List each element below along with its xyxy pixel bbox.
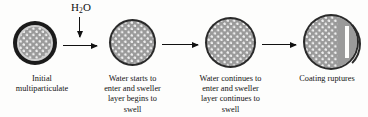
water-label: H2O: [71, 1, 91, 13]
stage-4-caption: Coating ruptures: [286, 74, 368, 84]
stage-2-stippled-core: [111, 21, 154, 64]
stage-4-rupture-flap: [305, 16, 361, 72]
arrow-water-in: [79, 17, 80, 37]
multiparticulate-swelling-diagram: Initial multiparticulate H2O Water start…: [0, 0, 368, 117]
arrow-1-to-2: [63, 45, 97, 46]
stage-2-caption-line-2: enter and sweller: [88, 84, 177, 94]
stage-4-caption-line-1: Coating ruptures: [286, 74, 368, 84]
water-label-subscript: 2: [79, 6, 83, 15]
stage-3-caption-line-3: layer continues to: [178, 94, 283, 104]
stage-3-stippled-core: [207, 19, 254, 66]
stage-1-stippled-core: [19, 27, 51, 59]
stage-2-caption-line-4: swell: [88, 105, 177, 115]
stage-3-caption-line-1: Water continues to: [178, 74, 283, 84]
stage-1-caption-line-2: multiparticulate: [0, 84, 84, 94]
water-label-h: H: [71, 1, 79, 13]
stage-3-caption-line-2: enter and sweller: [178, 84, 283, 94]
stage-3-caption-line-4: swell: [178, 105, 283, 115]
stage-2-caption-line-1: Water starts to: [88, 74, 177, 84]
arrow-2-to-3: [162, 44, 198, 45]
stage-2-caption-line-3: layer begins to: [88, 94, 177, 104]
stage-1-caption-line-1: Initial: [0, 74, 84, 84]
stage-3-caption: Water continues to enter and sweller lay…: [178, 74, 283, 115]
arrow-3-to-4: [262, 44, 296, 45]
stage-2-caption: Water starts to enter and sweller layer …: [88, 74, 177, 115]
water-label-o: O: [83, 1, 91, 13]
stage-1-caption: Initial multiparticulate: [0, 74, 84, 94]
